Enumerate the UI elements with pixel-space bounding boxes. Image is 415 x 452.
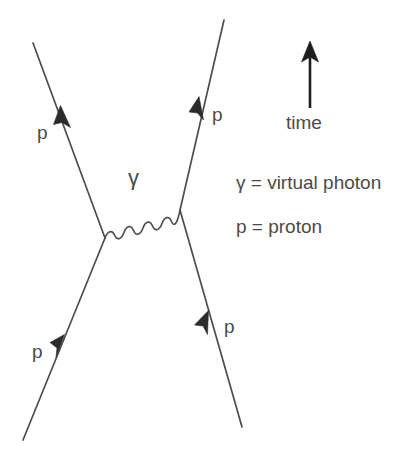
diagram-canvas: [0, 0, 415, 452]
legend-item-proton: p = proton: [236, 217, 322, 236]
label-outgoing-right-proton: p: [212, 105, 223, 124]
arrowhead-upper-left-icon: [54, 106, 71, 128]
label-incoming-left-proton: p: [32, 342, 43, 361]
photon-propagator-line: [105, 210, 180, 239]
virtual-photon-wave: [105, 210, 180, 239]
fermion-line-lower-left: [23, 238, 105, 440]
legend-item-virtual-photon: γ = virtual photon: [236, 173, 381, 192]
time-axis-arrow: [302, 41, 319, 108]
label-time-axis: time: [286, 113, 322, 132]
arrowhead-upper-right-icon: [189, 97, 204, 121]
label-virtual-photon-gamma: γ: [128, 167, 139, 189]
arrowhead-lower-left-icon: [50, 335, 65, 358]
label-outgoing-left-proton: p: [37, 123, 48, 142]
label-incoming-right-proton: p: [224, 317, 235, 336]
arrowhead-lower-right-icon: [195, 311, 209, 335]
incoming-left-proton-line: [23, 238, 105, 440]
feynman-diagram-figure: p p p p γ time γ = virtual photon p = pr…: [0, 0, 415, 452]
